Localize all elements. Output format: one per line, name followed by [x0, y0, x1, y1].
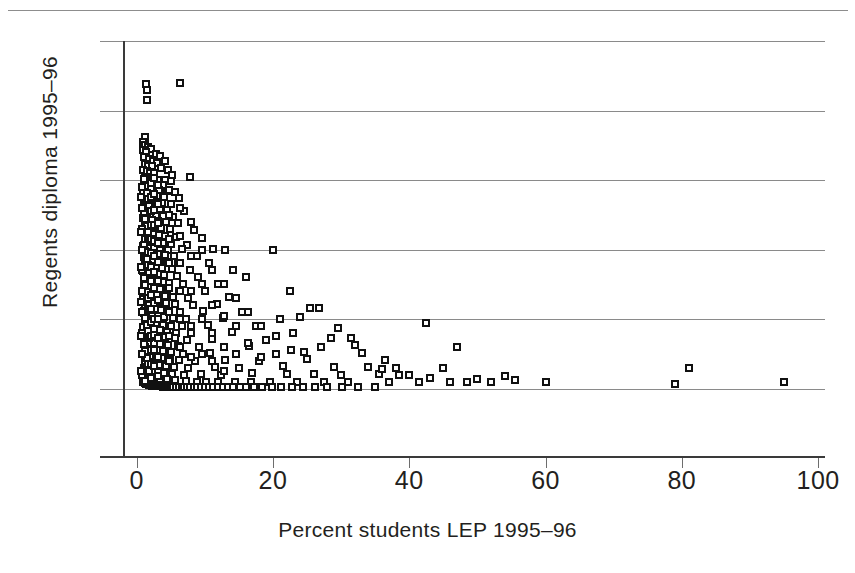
data-point — [187, 322, 195, 330]
data-point — [167, 177, 175, 185]
data-point — [138, 350, 146, 358]
data-point — [165, 211, 173, 219]
page-top-rule — [8, 10, 848, 11]
data-point — [371, 383, 379, 391]
data-point — [183, 336, 191, 344]
data-point — [463, 378, 471, 386]
data-point — [671, 380, 679, 388]
data-point — [501, 372, 509, 380]
data-point — [276, 315, 284, 323]
data-point — [176, 204, 184, 212]
data-point — [248, 369, 256, 377]
gridline-y-80 — [100, 111, 825, 112]
data-point — [288, 383, 296, 391]
data-point — [186, 266, 194, 274]
data-point — [154, 200, 162, 208]
x-tick-mark-20 — [273, 458, 274, 468]
scatter-plot-figure: -20020406080100 020406080100 Percent stu… — [0, 0, 855, 573]
data-point — [176, 79, 184, 87]
data-point — [147, 291, 155, 299]
data-point — [258, 383, 266, 391]
data-point — [165, 284, 173, 292]
data-point — [138, 287, 146, 295]
data-point — [143, 86, 151, 94]
data-point — [137, 263, 145, 271]
data-point — [487, 378, 495, 386]
data-point — [176, 315, 184, 323]
data-point — [268, 383, 276, 391]
data-point — [190, 226, 198, 234]
data-point — [220, 367, 228, 375]
data-point — [323, 383, 331, 391]
data-point — [138, 308, 146, 316]
data-point — [154, 181, 162, 189]
x-axis-line — [100, 456, 825, 458]
data-point — [198, 315, 206, 323]
data-point — [242, 273, 250, 281]
data-point — [351, 341, 359, 349]
x-tick-label-100: 100 — [797, 466, 840, 495]
data-point — [542, 378, 550, 386]
data-point — [221, 246, 229, 254]
data-point — [208, 329, 216, 337]
data-point — [176, 259, 184, 267]
data-point — [150, 190, 158, 198]
data-point — [138, 204, 146, 212]
data-point — [287, 346, 295, 354]
plot-area — [123, 41, 825, 458]
data-point — [250, 383, 258, 391]
data-point — [511, 376, 519, 384]
x-tick-mark-80 — [682, 458, 683, 468]
data-point — [334, 324, 342, 332]
data-point — [154, 372, 162, 380]
data-point — [381, 356, 389, 364]
data-point — [395, 371, 403, 379]
data-point — [208, 266, 216, 274]
data-point — [405, 371, 413, 379]
data-point — [150, 268, 158, 276]
data-point — [354, 383, 362, 391]
data-point — [178, 245, 186, 253]
data-point — [453, 343, 461, 351]
x-tick-label-60: 60 — [531, 466, 560, 495]
data-point — [426, 374, 434, 382]
y-axis-line — [123, 41, 125, 458]
data-point — [198, 280, 206, 288]
data-point — [244, 308, 252, 316]
data-point — [311, 383, 319, 391]
data-point — [327, 334, 335, 342]
data-point — [154, 296, 162, 304]
data-point — [303, 355, 311, 363]
data-point — [242, 383, 250, 391]
data-point — [175, 194, 183, 202]
data-point — [385, 378, 393, 386]
data-point — [165, 357, 173, 365]
x-tick-mark-100 — [818, 458, 819, 468]
data-point — [150, 284, 158, 292]
data-point — [154, 315, 162, 323]
x-tick-mark-40 — [409, 458, 410, 468]
data-point — [165, 332, 173, 340]
data-point — [143, 96, 151, 104]
data-point — [286, 287, 294, 295]
data-point — [358, 349, 366, 357]
data-point — [150, 362, 158, 370]
data-point — [306, 304, 314, 312]
data-point — [378, 365, 386, 373]
gridline-y-60 — [100, 180, 825, 181]
data-point — [137, 228, 145, 236]
data-point — [780, 378, 788, 386]
data-point — [257, 322, 265, 330]
gridline-y-20 — [100, 319, 825, 320]
data-point — [209, 245, 217, 253]
data-point — [187, 252, 195, 260]
data-point — [296, 313, 304, 321]
data-point — [171, 300, 179, 308]
y-axis-title: Regents diploma 1995–96 — [38, 0, 62, 392]
data-point — [154, 219, 162, 227]
data-point — [147, 374, 155, 382]
data-point — [262, 336, 270, 344]
data-point — [220, 312, 228, 320]
data-point — [232, 294, 240, 302]
data-point — [220, 343, 228, 351]
